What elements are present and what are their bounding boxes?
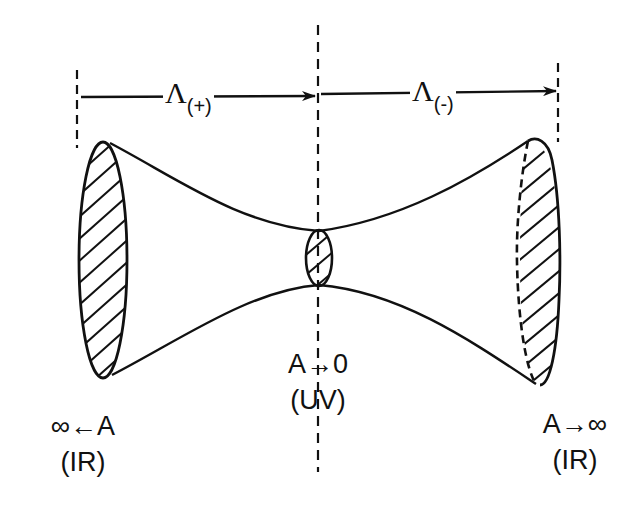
right-ir-label: A→∞ (IR) xyxy=(515,408,635,476)
center-regime-text: (UV) xyxy=(262,384,374,416)
upper-left-surface-curve xyxy=(110,143,319,231)
right-limit-text: A→∞ xyxy=(515,408,635,440)
left-ir-label: ∞←A (IR) xyxy=(28,410,138,478)
right-ir-cross-section xyxy=(510,130,570,422)
upper-right-surface-curve xyxy=(319,141,528,231)
lambda-plus-label: Λ(+) xyxy=(163,78,214,121)
center-uv-cross-section xyxy=(300,226,340,300)
left-limit-text: ∞←A xyxy=(28,410,138,442)
lambda-minus-subscript: (-) xyxy=(434,93,454,115)
lambda-minus-symbol: Λ xyxy=(412,74,434,107)
left-regime-text: (IR) xyxy=(28,446,138,478)
right-regime-text: (IR) xyxy=(515,444,635,476)
lambda-plus-symbol: Λ xyxy=(165,76,187,109)
lambda-minus-label: Λ(-) xyxy=(410,76,456,119)
lambda-plus-subscript: (+) xyxy=(187,95,212,117)
center-limit-text: A→0 xyxy=(262,348,374,380)
center-uv-label: A→0 (UV) xyxy=(262,348,374,416)
